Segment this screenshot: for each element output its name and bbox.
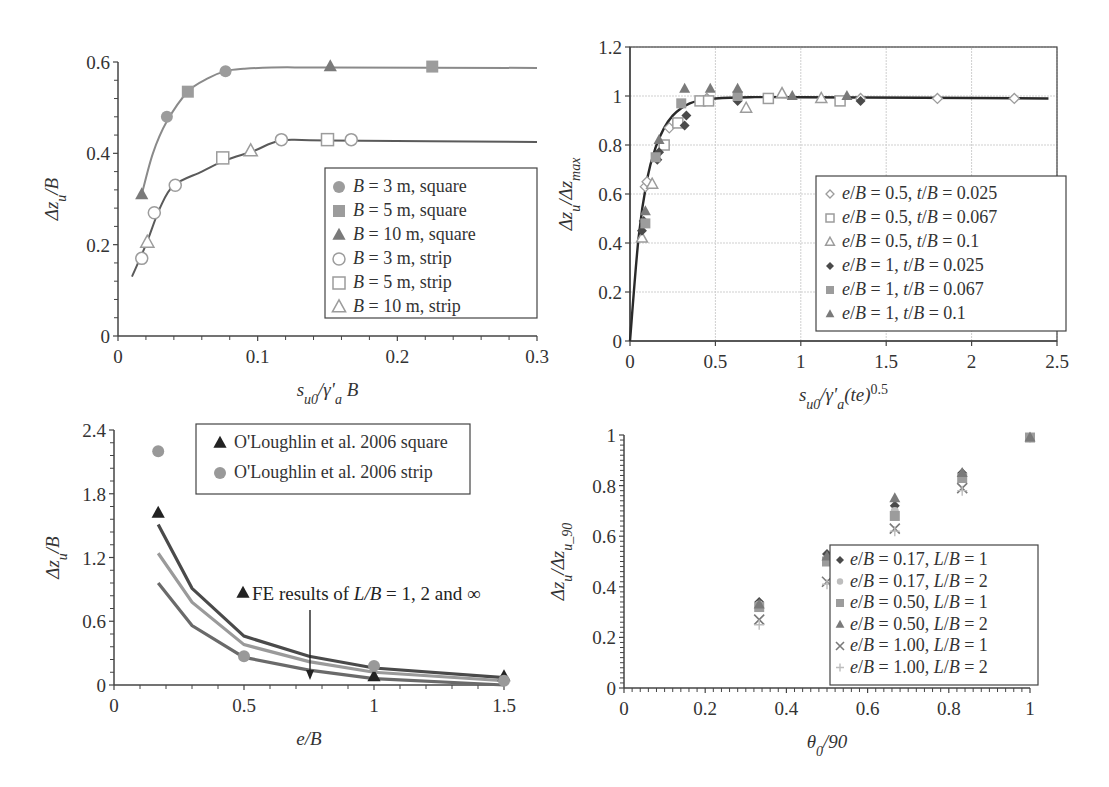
- y-tick-label: 0.4: [592, 577, 616, 598]
- data-point: [777, 88, 788, 98]
- arrow-head-icon: [306, 670, 314, 680]
- legend: e/B = 0.17, L/B = 1e/B = 0.17, L/B = 2e/…: [830, 545, 1038, 685]
- data-point: [932, 93, 942, 103]
- y-tick-label: 0.2: [86, 235, 110, 256]
- data-point: [368, 660, 380, 672]
- data-point: [182, 86, 194, 98]
- legend-item: e/B = 0.50, L/B = 2: [850, 614, 988, 634]
- svg-text:e/B = 0.5, t/B = 0.067: e/B = 0.5, t/B = 0.067: [842, 207, 997, 227]
- legend-item: e/B = 0.50, L/B = 1: [850, 592, 988, 612]
- data-point: [676, 98, 686, 108]
- y-tick-label: 0.8: [592, 476, 616, 497]
- legend-item: O'Loughlin et al. 2006 strip: [234, 462, 433, 482]
- chart-top-left: 00.10.20.300.20.40.6su0/γ'a BΔzu/BB = 3 …: [41, 52, 549, 407]
- data-point: [152, 445, 164, 457]
- series: [135, 59, 337, 199]
- legend-item: B = 5 m, square: [353, 200, 467, 220]
- data-point: [135, 187, 148, 199]
- x-tick-label: 0: [619, 698, 629, 719]
- y-tick-label: 0.6: [592, 526, 616, 547]
- x-tick-label: 0.3: [525, 346, 549, 367]
- data-point: [238, 650, 250, 662]
- data-point: [214, 467, 226, 479]
- data-point: [654, 134, 665, 144]
- y-axis-title: Δzu/B: [42, 536, 70, 580]
- x-tick-label: 0.2: [385, 346, 409, 367]
- legend-item: e/B = 1, t/B = 0.025: [842, 255, 984, 275]
- series: [636, 88, 826, 243]
- svg-text:Δzu/B: Δzu/B: [42, 536, 70, 580]
- chart-bottom-right: 00.20.40.60.8100.20.40.60.81θ0/90Δzu/Δzu…: [547, 425, 1038, 759]
- y-tick-label: 1.8: [82, 484, 106, 505]
- x-tick-label: 0.5: [704, 351, 728, 372]
- data-point: [679, 83, 690, 93]
- x-tick-label: 1: [369, 695, 379, 716]
- svg-text:Δzu/B: Δzu/B: [41, 177, 69, 221]
- svg-text:e/B = 1, t/B = 0.025: e/B = 1, t/B = 0.025: [842, 255, 984, 275]
- svg-text:B = 10 m, square: B = 10 m, square: [353, 224, 476, 244]
- data-point: [889, 492, 900, 502]
- svg-text:e/B = 0.50, L/B = 2: e/B = 0.50, L/B = 2: [850, 614, 988, 634]
- svg-text:θ0/90: θ0/90: [807, 731, 848, 759]
- legend-item: e/B = 0.17, L/B = 1: [850, 549, 988, 569]
- data-point: [345, 134, 357, 146]
- legend-item: e/B = 0.17, L/B = 2: [850, 571, 988, 591]
- x-tick-label: 0: [109, 695, 119, 716]
- data-point: [732, 83, 743, 93]
- legend-item: O'Loughlin et al. 2006 square: [234, 432, 448, 452]
- x-tick-label: 0.2: [693, 698, 717, 719]
- y-tick-label: 2.4: [82, 420, 106, 441]
- chart-top-right: 00.511.522.500.20.40.60.811.2su0/γ'a(te)…: [555, 37, 1069, 412]
- legend: O'Loughlin et al. 2006 squareO'Loughlin …: [196, 424, 470, 494]
- svg-text:O'Loughlin et al. 2006 strip: O'Loughlin et al. 2006 strip: [234, 462, 433, 482]
- svg-text:B = 3 m, square: B = 3 m, square: [353, 176, 467, 196]
- data-point: [705, 83, 716, 93]
- y-tick-label: 0.6: [598, 184, 622, 205]
- x-axis-title: su0/γ'a B: [297, 379, 359, 407]
- legend-item: B = 5 m, strip: [353, 272, 452, 292]
- legend-item: e/B = 1.00, L/B = 1: [850, 635, 988, 655]
- y-tick-label: 0.4: [86, 143, 110, 164]
- legend-item: e/B = 1, t/B = 0.1: [842, 303, 966, 323]
- x-axis-title: e/B: [296, 728, 322, 749]
- data-point: [322, 134, 334, 146]
- data-point: [136, 252, 148, 264]
- x-tick-label: 2: [967, 351, 977, 372]
- x-tick-label: 1: [1025, 698, 1035, 719]
- series: [161, 65, 232, 123]
- svg-text:e/B = 1, t/B = 0.067: e/B = 1, t/B = 0.067: [842, 279, 984, 299]
- svg-text:e/B = 1, t/B = 0.1: e/B = 1, t/B = 0.1: [842, 303, 966, 323]
- chart-bottom-left: 00.511.500.61.21.82.4e/BΔzu/BO'Loughlin …: [42, 420, 516, 749]
- data-point: [1009, 93, 1019, 103]
- y-tick-label: 0.8: [598, 135, 622, 156]
- data-point: [754, 620, 764, 630]
- y-tick-label: 1: [607, 425, 617, 446]
- y-tick-label: 0: [101, 326, 111, 347]
- legend-item: e/B = 1, t/B = 0.067: [842, 279, 984, 299]
- x-tick-label: 1: [796, 351, 806, 372]
- x-tick-label: 0.8: [937, 698, 961, 719]
- svg-text:e/B = 0.17, L/B = 2: e/B = 0.17, L/B = 2: [850, 571, 988, 591]
- y-tick-label: 0: [607, 678, 617, 699]
- y-tick-label: 0.4: [598, 233, 622, 254]
- data-point: [236, 586, 249, 598]
- data-point: [741, 102, 752, 112]
- svg-text:Δzu/Δzu_90: Δzu/Δzu_90: [547, 523, 575, 601]
- svg-text:su0/γ'a B: su0/γ'a B: [297, 379, 359, 407]
- data-point: [957, 486, 967, 496]
- svg-text:B = 10 m, strip: B = 10 m, strip: [353, 296, 461, 316]
- svg-text:e/B = 0.50, L/B = 1: e/B = 0.50, L/B = 1: [850, 592, 988, 612]
- data-point: [161, 111, 173, 123]
- data-point: [890, 526, 900, 536]
- data-point: [836, 599, 844, 607]
- y-axis-title: Δzu/Δzu_90: [547, 523, 575, 601]
- x-tick-label: 0.6: [856, 698, 880, 719]
- y-axis-title: Δzu/B: [41, 177, 69, 221]
- x-tick-label: 0: [113, 346, 123, 367]
- data-point: [333, 253, 345, 265]
- y-tick-label: 0: [613, 331, 623, 352]
- data-point: [220, 65, 232, 77]
- data-point: [640, 218, 650, 228]
- svg-text:e/B = 1.00, L/B = 2: e/B = 1.00, L/B = 2: [850, 657, 988, 677]
- svg-text:e/B = 0.17, L/B = 1: e/B = 0.17, L/B = 1: [850, 549, 988, 569]
